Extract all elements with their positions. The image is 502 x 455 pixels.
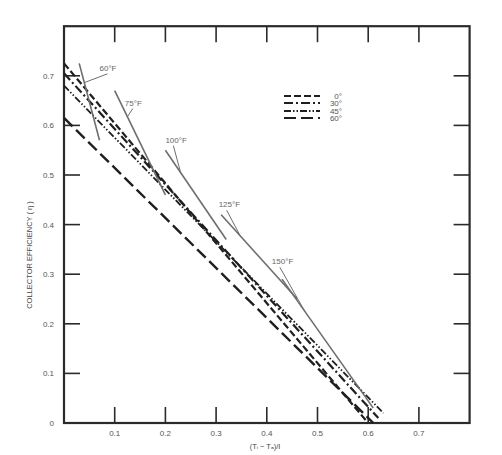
y-tick-label: 0.2 bbox=[43, 320, 55, 329]
temperature-label: 100°F bbox=[165, 136, 187, 145]
y-tick-label: 0.1 bbox=[43, 369, 55, 378]
y-axis-label: COLLECTOR EFFICIENCY ( η ) bbox=[25, 201, 34, 309]
temperature-label: 150°F bbox=[272, 257, 294, 266]
callout-leader bbox=[127, 109, 132, 117]
y-tick-label: 0.3 bbox=[43, 270, 55, 279]
x-tick-label: 0.3 bbox=[211, 429, 223, 438]
y-tick-label: 0.7 bbox=[43, 72, 55, 81]
x-tick-label: 0.7 bbox=[413, 429, 425, 438]
callout-leader bbox=[280, 267, 305, 311]
temperature-label: 75°F bbox=[125, 99, 142, 108]
x-tick-label: 0.2 bbox=[160, 429, 172, 438]
plot-frame bbox=[64, 26, 470, 423]
x-tick-label: 0.5 bbox=[312, 429, 324, 438]
series-line-60deg bbox=[64, 118, 373, 423]
axis-tick-labels: 0.10.20.30.40.50.60.700.10.20.30.40.50.6… bbox=[43, 72, 425, 438]
temperature-callouts: 60°F75°F100°F125°F150°F bbox=[84, 64, 305, 312]
axis-ticks bbox=[64, 26, 470, 423]
legend: 0°30°45°60° bbox=[284, 92, 342, 123]
x-axis-label: (Tᵢ − Tₐ)/I bbox=[250, 442, 281, 451]
legend-label: 60° bbox=[330, 114, 342, 123]
x-tick-label: 0.6 bbox=[363, 429, 375, 438]
y-tick-label: 0.4 bbox=[43, 221, 55, 230]
x-tick-label: 0.1 bbox=[109, 429, 121, 438]
callout-leader bbox=[84, 74, 107, 83]
series-line-0deg bbox=[64, 63, 368, 423]
y-tick-label: 0 bbox=[50, 419, 55, 428]
efficiency-chart: 0.10.20.30.40.50.60.700.10.20.30.40.50.6… bbox=[0, 0, 502, 455]
y-tick-label: 0.6 bbox=[43, 121, 55, 130]
isotherm-line bbox=[282, 279, 373, 408]
temperature-label: 60°F bbox=[99, 64, 116, 73]
plot-border bbox=[64, 26, 470, 423]
series-line-45deg bbox=[64, 86, 383, 413]
y-tick-label: 0.5 bbox=[43, 171, 55, 180]
x-tick-label: 0.4 bbox=[261, 429, 273, 438]
temperature-label: 125°F bbox=[219, 200, 241, 209]
